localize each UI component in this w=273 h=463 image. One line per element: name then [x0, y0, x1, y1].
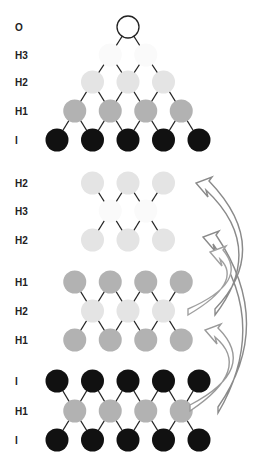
layer-label-h1: H1	[15, 277, 28, 288]
node-h1	[63, 271, 86, 294]
node-i	[152, 129, 175, 152]
node-h1	[63, 100, 86, 123]
node-i	[188, 370, 211, 393]
node-i	[117, 370, 140, 393]
node-i	[46, 429, 69, 452]
node-i	[46, 129, 69, 152]
node-h1	[170, 100, 193, 123]
node-i	[117, 129, 140, 152]
node-i	[188, 129, 211, 152]
node-h2	[81, 229, 104, 252]
node-h3	[99, 44, 122, 67]
node-h1	[134, 100, 157, 123]
layer-label-h2: H2	[15, 77, 28, 88]
node-h1	[99, 271, 122, 294]
node-h1	[63, 400, 86, 423]
node-i	[188, 429, 211, 452]
layer-label-i: I	[15, 376, 18, 387]
node-i	[81, 370, 104, 393]
layer-label-h1: H1	[15, 106, 28, 117]
transfer-arrow-icon	[188, 246, 231, 315]
node-i	[46, 370, 69, 393]
nodes-layer	[46, 16, 211, 452]
layer-label-h1: H1	[15, 406, 28, 417]
node-h2	[117, 71, 140, 94]
labels-layer: OH3H2H1IH2H3H2H1H2H1IH1I	[15, 22, 28, 446]
transfer-arrow-icon	[190, 324, 233, 411]
node-h2	[152, 300, 175, 323]
node-h2	[117, 300, 140, 323]
node-h1	[170, 271, 193, 294]
node-h2	[152, 229, 175, 252]
layer-label-h3: H3	[15, 50, 28, 61]
node-i	[152, 370, 175, 393]
node-h2	[117, 229, 140, 252]
node-output	[117, 16, 139, 38]
node-i	[117, 429, 140, 452]
node-h3	[134, 200, 157, 223]
stacked-autoencoder-diagram: OH3H2H1IH2H3H2H1H2H1IH1I	[0, 0, 273, 463]
node-h1	[99, 329, 122, 352]
node-h1	[99, 400, 122, 423]
node-h1	[170, 329, 193, 352]
node-h1	[134, 271, 157, 294]
node-h2	[81, 172, 104, 195]
node-h3	[134, 44, 157, 67]
layer-label-h2: H2	[15, 306, 28, 317]
node-h1	[134, 400, 157, 423]
layer-label-o: O	[15, 22, 23, 33]
node-h1	[63, 329, 86, 352]
node-i	[152, 429, 175, 452]
layer-label-h3: H3	[15, 206, 28, 217]
layer-label-i: I	[15, 435, 18, 446]
node-h2	[152, 71, 175, 94]
node-i	[81, 129, 104, 152]
node-h2	[117, 172, 140, 195]
node-h3	[99, 200, 122, 223]
layer-label-h2: H2	[15, 178, 28, 189]
node-h1	[134, 329, 157, 352]
layer-label-i: I	[15, 135, 18, 146]
node-h2	[81, 300, 104, 323]
node-i	[81, 429, 104, 452]
node-h2	[152, 172, 175, 195]
layer-label-h1: H1	[15, 335, 28, 346]
node-h2	[81, 71, 104, 94]
node-h1	[99, 100, 122, 123]
layer-label-h2: H2	[15, 235, 28, 246]
